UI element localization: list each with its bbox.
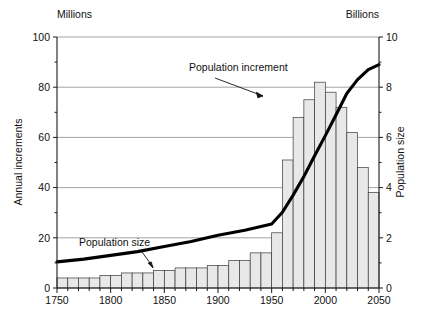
left-unit-label: Millions <box>57 8 92 20</box>
y2-tick-label: 10 <box>386 31 398 43</box>
annotation-increment-label: Population increment <box>189 61 288 73</box>
right-axis-title: Population size <box>394 126 406 197</box>
y2-tick-label: 2 <box>386 232 392 244</box>
bar <box>68 278 79 288</box>
annotation-size-arrowhead <box>148 262 153 268</box>
bar <box>336 107 347 288</box>
bar <box>293 117 304 288</box>
bar <box>89 278 100 288</box>
chart-canvas: 020406080100 0246810 1750180018501900195… <box>0 0 422 325</box>
bar <box>218 265 229 288</box>
bar <box>186 268 197 288</box>
bar <box>197 268 208 288</box>
annotation-population-increment: Population increment <box>189 61 288 98</box>
y-tick-label: 20 <box>38 232 50 244</box>
bar <box>261 253 272 288</box>
bar <box>304 100 315 288</box>
bar <box>282 160 293 288</box>
bar <box>132 273 143 288</box>
bar <box>358 168 369 288</box>
bar <box>121 273 132 288</box>
bar <box>315 82 326 288</box>
bar <box>229 260 240 288</box>
left-axis-title: Annual increments <box>12 119 24 206</box>
y-tick-label: 100 <box>32 31 50 43</box>
x-tick-label: 1750 <box>45 294 69 306</box>
bar <box>57 278 68 288</box>
bar <box>78 278 89 288</box>
x-axis-tick-labels: 1750180018501900195020002050 <box>45 294 391 306</box>
population-chart: 020406080100 0246810 1750180018501900195… <box>0 0 422 325</box>
bar <box>100 275 111 288</box>
y2-tick-label: 6 <box>386 131 392 143</box>
bar <box>207 265 218 288</box>
left-axis-ticks <box>53 37 57 288</box>
annotation-increment-arrowhead <box>256 92 263 98</box>
bar <box>347 132 358 288</box>
bar <box>154 270 165 288</box>
bar <box>250 253 261 288</box>
y2-tick-label: 0 <box>386 282 392 294</box>
x-tick-label: 2000 <box>314 294 338 306</box>
right-axis-ticks <box>379 37 383 288</box>
y-tick-label: 40 <box>38 181 50 193</box>
bar <box>143 273 154 288</box>
bar <box>325 92 336 288</box>
y-tick-label: 0 <box>44 282 50 294</box>
annotation-size-label: Population size <box>79 236 150 248</box>
right-unit-label: Billions <box>346 8 379 20</box>
y2-tick-label: 8 <box>386 81 392 93</box>
x-axis-ticks <box>57 288 379 293</box>
x-tick-label: 1850 <box>153 294 177 306</box>
y-tick-label: 60 <box>38 131 50 143</box>
bar <box>175 268 186 288</box>
y-tick-label: 80 <box>38 81 50 93</box>
bar <box>164 270 175 288</box>
x-tick-label: 2050 <box>367 294 391 306</box>
left-axis-tick-labels: 020406080100 <box>32 31 50 294</box>
y2-tick-label: 4 <box>386 181 392 193</box>
bar <box>368 193 379 288</box>
bar <box>111 275 122 288</box>
x-tick-label: 1900 <box>206 294 230 306</box>
x-tick-label: 1800 <box>99 294 123 306</box>
bar <box>239 260 250 288</box>
bar <box>272 233 283 288</box>
x-tick-label: 1950 <box>260 294 284 306</box>
